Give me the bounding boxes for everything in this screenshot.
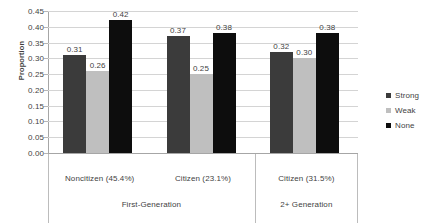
- y-axis-tick-label: 0.10: [28, 117, 44, 126]
- bar-weak-1: [190, 74, 213, 153]
- y-axis-tick-mark: [44, 27, 48, 28]
- bar-weak-0: [86, 71, 109, 153]
- legend-item-strong[interactable]: Strong: [386, 88, 434, 103]
- y-axis-tick-mark: [44, 106, 48, 107]
- legend-label: Strong: [395, 91, 419, 100]
- y-axis-line: [48, 11, 49, 154]
- bar-strong-2: [270, 52, 293, 153]
- legend-swatch-icon: [386, 108, 391, 113]
- y-axis-tick-label: 0.00: [28, 149, 44, 158]
- y-axis-tick-label: 0.45: [28, 7, 44, 16]
- bar-value-label: 0.38: [312, 23, 343, 32]
- y-axis-tick-label: 0.35: [28, 38, 44, 47]
- legend-item-weak[interactable]: Weak: [386, 103, 434, 118]
- bar-weak-2: [293, 58, 316, 153]
- legend-swatch-icon: [386, 123, 391, 128]
- group-label: 2+ Generation: [255, 200, 358, 209]
- bar-value-label: 0.42: [105, 10, 136, 19]
- y-axis-tick-label: 0.05: [28, 133, 44, 142]
- bar-none-0: [109, 20, 132, 153]
- group-divider: [255, 154, 256, 223]
- y-axis-tick-label: 0.20: [28, 85, 44, 94]
- bar-chart: Proportion 0.450.400.350.300.250.200.150…: [0, 0, 434, 223]
- category-axis-outline: [48, 154, 358, 223]
- y-axis-tick-label: 0.40: [28, 22, 44, 31]
- y-axis-tick-mark: [44, 74, 48, 75]
- legend-label: Weak: [395, 106, 416, 115]
- bar-value-label: 0.37: [163, 26, 194, 35]
- legend-label: None: [395, 121, 415, 130]
- grid-line: [48, 11, 358, 12]
- bar-value-label: 0.38: [209, 23, 240, 32]
- y-axis-tick-label: 0.25: [28, 70, 44, 79]
- y-axis-tick-labels: 0.450.400.350.300.250.200.150.100.050.00: [0, 0, 46, 223]
- category-label: Noncitizen (45.4%): [48, 174, 151, 183]
- y-axis-tick-mark: [44, 90, 48, 91]
- y-axis-tick-label: 0.30: [28, 54, 44, 63]
- bar-none-1: [213, 33, 236, 153]
- legend-swatch-icon: [386, 93, 391, 98]
- bar-strong-1: [167, 36, 190, 153]
- chart-legend: StrongWeakNone: [386, 88, 434, 133]
- category-label: Citizen (23.1%): [151, 174, 254, 183]
- grid-line: [48, 43, 358, 44]
- category-axis: Noncitizen (45.4%)Citizen (23.1%)Citizen…: [48, 154, 358, 223]
- group-label: First-Generation: [48, 200, 255, 209]
- y-axis-tick-mark: [44, 137, 48, 138]
- y-axis-tick-mark: [44, 43, 48, 44]
- y-axis-tick-label: 0.15: [28, 101, 44, 110]
- y-axis-tick-mark: [44, 58, 48, 59]
- bar-none-2: [316, 33, 339, 153]
- bar-value-label: 0.31: [59, 45, 90, 54]
- category-label: Citizen (31.5%): [255, 174, 358, 183]
- y-axis-tick-mark: [44, 121, 48, 122]
- legend-item-none[interactable]: None: [386, 118, 434, 133]
- y-axis-tick-mark: [44, 11, 48, 12]
- plot-area: 0.310.260.420.370.250.380.320.300.38: [48, 11, 358, 154]
